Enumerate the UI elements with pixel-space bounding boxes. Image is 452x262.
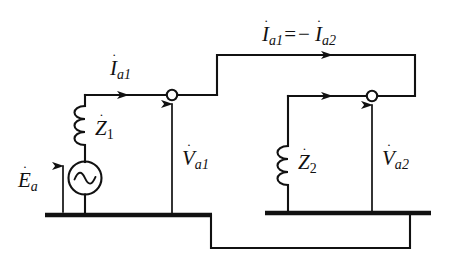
minus-operator: − (297, 22, 311, 46)
inductor-coil-z2 (278, 146, 289, 185)
equation-subscript-2: a2 (322, 33, 336, 48)
impedance-subscript: 1 (107, 127, 114, 142)
impedance-z2-label: ˙Z2 (298, 152, 317, 176)
current-subscript: a1 (117, 67, 131, 82)
voltage-subscript: a1 (195, 157, 209, 172)
circuit-diagram: ˙Ia1=−˙Ia2 ˙Ia1 ˙Z1 ˙Z2 ˙Va1 ˙Va2 ˙Ea (0, 0, 452, 262)
overdot-icon: ˙ (387, 142, 392, 157)
overdot-icon: ˙ (99, 112, 104, 127)
wire-bottom-return-path (211, 213, 410, 248)
sine-wave-glyph (75, 173, 96, 184)
voltage-subscript: a2 (395, 157, 409, 172)
equation-subscript-1: a1 (269, 33, 283, 48)
inductor-coil-z1 (75, 106, 86, 145)
wire-top-interconnect (217, 55, 415, 96)
impedance-z1-label: ˙Z1 (95, 118, 114, 142)
terminal-node-a1-circle (167, 90, 177, 100)
overdot-icon: ˙ (264, 18, 269, 33)
overdot-icon: ˙ (23, 164, 28, 179)
overdot-icon: ˙ (317, 18, 322, 33)
emf-ea-label: ˙Ea (18, 170, 38, 194)
overdot-icon: ˙ (187, 142, 192, 157)
equals-operator: = (283, 22, 297, 46)
current-ia1-label: ˙Ia1 (110, 58, 131, 82)
voltage-va2-label: ˙Va2 (382, 148, 409, 172)
circuit-schematic-svg (0, 0, 452, 262)
voltage-va1-label: ˙Va1 (182, 148, 209, 172)
overdot-icon: ˙ (112, 52, 117, 67)
emf-subscript: a (31, 179, 38, 194)
current-relation-equation: ˙Ia1=−˙Ia2 (262, 24, 336, 48)
terminal-node-a2-circle (367, 91, 377, 101)
impedance-subscript: 2 (310, 161, 317, 176)
overdot-icon: ˙ (302, 146, 307, 161)
